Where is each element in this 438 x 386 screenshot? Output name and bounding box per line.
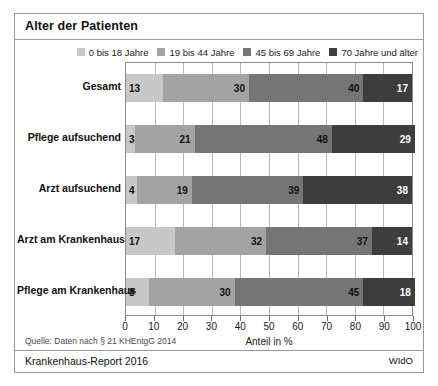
- bar-segment: 17: [126, 227, 175, 255]
- bar-row: 8304518: [126, 278, 412, 306]
- category-label: Pflege am Krankenhaus: [17, 284, 125, 296]
- category-label: Gesamt: [17, 80, 125, 92]
- bar-value-label: 30: [234, 83, 245, 94]
- x-tick-label: 40: [235, 321, 246, 332]
- category-label: Arzt aufsuchend: [17, 182, 125, 194]
- legend-swatch-icon: [157, 48, 165, 56]
- bar-segment: 45: [235, 278, 364, 306]
- legend-swatch-icon: [329, 48, 337, 56]
- bar-segment: 14: [372, 227, 412, 255]
- legend-item: 45 bis 69 Jahre: [243, 47, 320, 58]
- bar-value-label: 48: [317, 134, 328, 145]
- legend-item: 0 bis 18 Jahre: [77, 47, 149, 58]
- figure-title-bar: Alter der Patienten: [15, 14, 423, 40]
- bar-segment: 29: [332, 125, 415, 153]
- legend-label: 0 bis 18 Jahre: [89, 47, 149, 58]
- bar-segment: 17: [363, 74, 412, 102]
- x-tick-label: 70: [321, 321, 332, 332]
- x-tick-label: 50: [263, 321, 274, 332]
- category-axis-labels: GesamtPflege aufsuchendArzt aufsuchendAr…: [15, 62, 125, 316]
- source-note: Quelle: Daten nach § 21 KHEntgG 2014: [25, 336, 176, 346]
- legend-item: 19 bis 44 Jahre: [157, 47, 234, 58]
- bar-value-label: 21: [180, 134, 191, 145]
- bar-value-label: 19: [177, 185, 188, 196]
- x-tick-label: 10: [148, 321, 159, 332]
- bar-value-label: 40: [348, 83, 359, 94]
- legend-item: 70 Jahre und älter: [329, 47, 418, 58]
- bar-segment: 30: [149, 278, 235, 306]
- bar-segment: 38: [303, 176, 412, 204]
- bar-value-label: 17: [129, 235, 140, 246]
- bar-value-label: 29: [400, 134, 411, 145]
- bar-series-container: 1330401732148294193938173237148304518: [126, 63, 412, 315]
- page-title: Alter der Patienten: [25, 19, 138, 33]
- legend-label: 70 Jahre und älter: [341, 47, 418, 58]
- bar-value-label: 14: [397, 235, 408, 246]
- bar-segment: 19: [137, 176, 191, 204]
- report-name: Krankenhaus-Report 2016: [25, 355, 148, 367]
- plot-area: 1330401732148294193938173237148304518: [125, 62, 413, 316]
- x-tick-label: 30: [206, 321, 217, 332]
- figure-panel: Alter der Patienten 0 bis 18 Jahre19 bis…: [14, 13, 424, 373]
- chart-legend: 0 bis 18 Jahre19 bis 44 Jahre45 bis 69 J…: [15, 44, 423, 60]
- bar-row: 3214829: [126, 125, 412, 153]
- x-axis-tick-labels: 0102030405060708090100: [125, 321, 413, 335]
- bar-segment: 39: [192, 176, 304, 204]
- bar-row: 13304017: [126, 74, 412, 102]
- bar-row: 17323714: [126, 227, 412, 255]
- bar-value-label: 4: [129, 185, 135, 196]
- legend-swatch-icon: [77, 48, 85, 56]
- bar-segment: 40: [249, 74, 363, 102]
- bar-segment: 30: [163, 74, 249, 102]
- publisher-name: WIdO: [389, 355, 413, 366]
- legend-label: 45 bis 69 Jahre: [255, 47, 320, 58]
- bar-value-label: 39: [288, 185, 299, 196]
- x-tick-label: 90: [379, 321, 390, 332]
- bar-value-label: 37: [357, 235, 368, 246]
- bar-value-label: 32: [251, 235, 262, 246]
- figure-footer-bar: Krankenhaus-Report 2016 WIdO: [15, 350, 423, 372]
- bar-value-label: 38: [397, 185, 408, 196]
- bar-value-label: 30: [220, 286, 231, 297]
- x-tick-label: 0: [122, 321, 128, 332]
- bar-segment: 32: [175, 227, 267, 255]
- legend-swatch-icon: [243, 48, 251, 56]
- bar-segment: 13: [126, 74, 163, 102]
- bar-value-label: 18: [400, 286, 411, 297]
- bar-value-label: 17: [397, 83, 408, 94]
- bar-segment: 3: [126, 125, 135, 153]
- x-tick-label: 20: [177, 321, 188, 332]
- bar-segment: 4: [126, 176, 137, 204]
- x-tick-label: 60: [292, 321, 303, 332]
- bar-row: 4193938: [126, 176, 412, 204]
- category-label: Arzt am Krankenhaus: [17, 233, 125, 245]
- category-label: Pflege aufsuchend: [17, 131, 125, 143]
- x-tick-label: 100: [405, 321, 422, 332]
- bar-value-label: 13: [129, 83, 140, 94]
- bar-segment: 18: [363, 278, 414, 306]
- bar-segment: 21: [135, 125, 195, 153]
- legend-label: 19 bis 44 Jahre: [169, 47, 234, 58]
- bar-value-label: 45: [348, 286, 359, 297]
- x-tick-label: 80: [350, 321, 361, 332]
- bar-segment: 48: [195, 125, 332, 153]
- bar-segment: 37: [266, 227, 372, 255]
